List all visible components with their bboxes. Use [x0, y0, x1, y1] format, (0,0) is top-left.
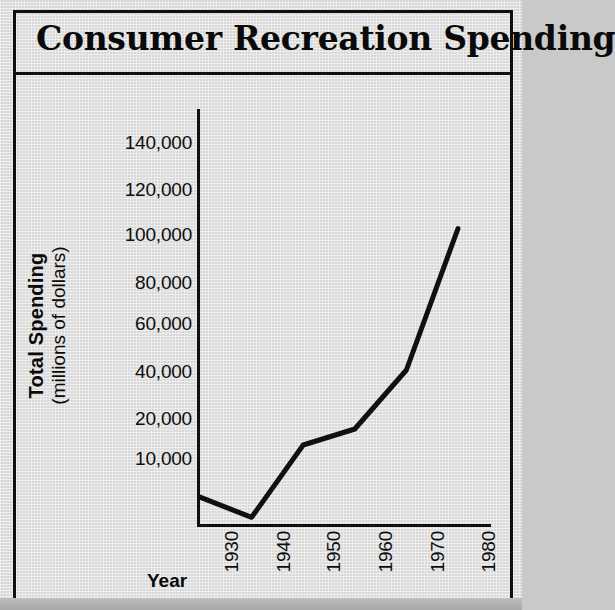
x-tick-label: 1950	[323, 531, 345, 572]
x-tick-label: 1940	[273, 531, 295, 572]
figure-title-bar: Consumer Recreation Spending	[16, 13, 510, 75]
data-series-line	[16, 75, 516, 605]
x-tick-label: 1970	[427, 531, 449, 572]
x-tick-label: 1980	[478, 531, 500, 572]
plot-area: Total Spending (millions of dollars) 140…	[16, 75, 510, 599]
x-axis-title: Year	[147, 570, 187, 592]
x-tick-label: 1930	[221, 531, 243, 572]
x-tick-label: 1960	[375, 531, 397, 572]
x-tick-labels: 1930 1940 1950 1960 1970 1980	[197, 527, 497, 610]
page-title: Consumer Recreation Spending	[36, 19, 615, 58]
figure-frame: Consumer Recreation Spending Total Spend…	[13, 10, 513, 602]
